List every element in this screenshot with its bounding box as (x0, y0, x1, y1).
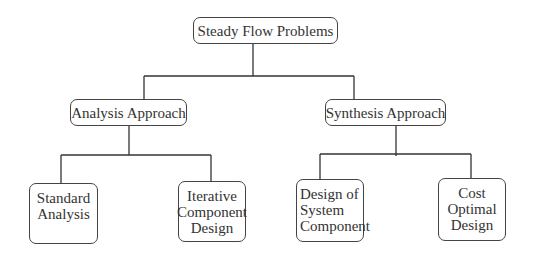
node-label: Synthesis Approach (326, 105, 446, 121)
node-label-line: Optimal (447, 201, 496, 217)
node-label-line: Component (300, 218, 370, 234)
node-label-line: Iterative (187, 188, 237, 204)
node-synthesis-approach: Synthesis Approach (325, 99, 446, 126)
node-label-line: Cost (458, 185, 486, 201)
node-iterative-component-design: Iterative Component Design (178, 181, 246, 242)
node-design-of-system-component: Design of System Component (296, 179, 364, 242)
flow-problems-diagram: Steady Flow Problems Analysis Approach S… (0, 0, 535, 260)
node-label: Steady Flow Problems (198, 23, 334, 39)
node-label-line: System (300, 202, 344, 218)
node-standard-analysis: Standard Analysis (29, 183, 98, 244)
node-label: Analysis Approach (71, 105, 186, 121)
node-label-line: Design (191, 220, 234, 236)
node-label-line: Design (451, 217, 494, 233)
node-label-line: Component (177, 204, 247, 220)
node-cost-optimal-design: Cost Optimal Design (438, 178, 506, 241)
node-label-line: Analysis (37, 206, 90, 222)
node-label-line: Design of (300, 186, 359, 202)
node-steady-flow-problems: Steady Flow Problems (193, 17, 338, 44)
node-analysis-approach: Analysis Approach (70, 99, 187, 126)
node-label-line: Standard (37, 190, 90, 206)
